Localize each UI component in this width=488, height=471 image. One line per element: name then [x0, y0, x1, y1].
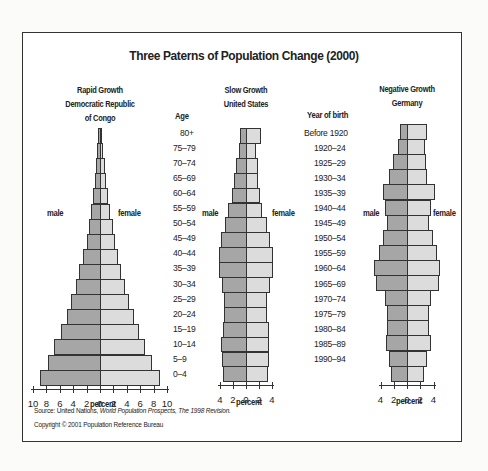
birth-year-label: 1920–24 [314, 142, 345, 153]
female-bar [407, 124, 427, 140]
female-bar [246, 188, 260, 204]
female-bar [100, 294, 129, 310]
source-title: World Population Prospects, The 1998 Rev… [100, 406, 231, 415]
age-group-label: 20–24 [173, 308, 195, 319]
male-bar [376, 275, 408, 291]
male-bar [71, 294, 101, 310]
female-bar [246, 277, 270, 293]
x-tick-label: 4 [374, 394, 388, 405]
female-bar [246, 158, 258, 174]
male-bar [379, 245, 408, 261]
congo-subtitle-line: of Congo [56, 111, 144, 125]
female-bar [100, 355, 152, 371]
age-group-label: 10–14 [173, 338, 195, 349]
source-note: Source: United Nations, World Population… [34, 404, 231, 432]
male-bar [61, 324, 101, 340]
x-axis-tick [100, 386, 101, 393]
x-axis-tick [140, 386, 141, 393]
age-group-label: 70–74 [173, 157, 195, 168]
x-axis-tick [259, 382, 260, 389]
female-bar [246, 203, 262, 219]
germany-female-label: female [433, 208, 456, 218]
birth-year-label: 1985–89 [314, 338, 345, 349]
female-bar [100, 188, 108, 204]
age-group-label: 55–59 [173, 202, 195, 213]
female-bar [407, 245, 437, 261]
male-bar [219, 262, 247, 278]
female-bar [407, 260, 440, 276]
male-bar [387, 305, 408, 321]
birth-year-label: 1950–54 [314, 232, 345, 243]
birth-year-label: 1925–29 [314, 157, 345, 168]
chart-title: Three Paterns of Population Change (2000… [20, 48, 469, 63]
birth-year-label: 1975–79 [314, 308, 345, 319]
birth-year-label: Before 1920 [304, 127, 348, 138]
x-axis-tick [233, 382, 234, 389]
x-axis-tick [87, 386, 88, 393]
female-bar [246, 322, 269, 338]
age-group-label: 15–19 [173, 323, 195, 334]
source-prefix: Source: United Nations, [34, 406, 100, 415]
female-bar [407, 335, 431, 351]
male-bar [383, 230, 408, 246]
male-bar [386, 335, 408, 351]
female-bar [100, 204, 110, 220]
x-tick-label: 4 [265, 394, 279, 405]
female-bar [246, 307, 267, 323]
female-bar [246, 292, 267, 308]
male-bar [79, 264, 101, 280]
age-group-label: 45–49 [173, 232, 195, 243]
us-male-label: male [202, 208, 218, 218]
male-bar [87, 234, 101, 250]
female-bar [407, 305, 429, 321]
center-axis-line [100, 128, 101, 389]
germany-male-label: male [363, 208, 379, 218]
center-axis-line [246, 128, 247, 385]
female-bar [100, 309, 134, 325]
birth-year-label: 1980–84 [314, 323, 345, 334]
center-axis-line [407, 124, 408, 385]
male-bar [232, 188, 247, 204]
female-bar [100, 234, 115, 250]
female-bar [246, 247, 273, 263]
male-bar [385, 290, 408, 306]
female-bar [407, 290, 431, 306]
female-bar [407, 154, 426, 170]
congo-subtitle-line: Rapid Growth [56, 83, 144, 97]
source-line: Source: United Nations, World Population… [34, 404, 231, 418]
age-group-label: 50–54 [173, 217, 195, 228]
male-bar [387, 320, 408, 336]
male-bar [40, 370, 101, 386]
copyright-line: Copyright © 2001 Population Reference Bu… [34, 418, 231, 432]
male-bar [221, 232, 247, 248]
germany-subtitle-line: Germany [363, 96, 451, 110]
congo-female-label: female [118, 208, 141, 218]
male-bar [389, 351, 408, 367]
x-tick-label: 4 [427, 394, 441, 405]
female-bar [100, 339, 145, 355]
x-axis-tick [60, 386, 61, 393]
male-bar [83, 249, 101, 265]
male-bar [76, 279, 101, 295]
male-bar [54, 339, 101, 355]
x-axis-tick [73, 386, 74, 393]
female-bar [407, 169, 427, 185]
female-bar [100, 370, 160, 386]
male-bar [222, 277, 247, 293]
female-bar [100, 249, 118, 265]
female-bar [407, 320, 429, 336]
age-group-label: 75–79 [173, 142, 195, 153]
age-group-label: 0–4 [173, 368, 186, 379]
year-of-birth-header: Year of birth [307, 110, 348, 120]
us-subtitle-line: United States [202, 97, 290, 111]
female-bar [407, 366, 424, 382]
male-bar [225, 217, 247, 233]
us-subtitle: Slow Growth United States [202, 83, 290, 111]
birth-year-label: 1945–49 [314, 217, 345, 228]
x-axis-tick [407, 382, 408, 389]
male-bar [223, 322, 247, 338]
female-bar [407, 230, 433, 246]
male-bar [222, 352, 247, 368]
male-bar [221, 337, 247, 353]
female-bar [246, 128, 261, 144]
